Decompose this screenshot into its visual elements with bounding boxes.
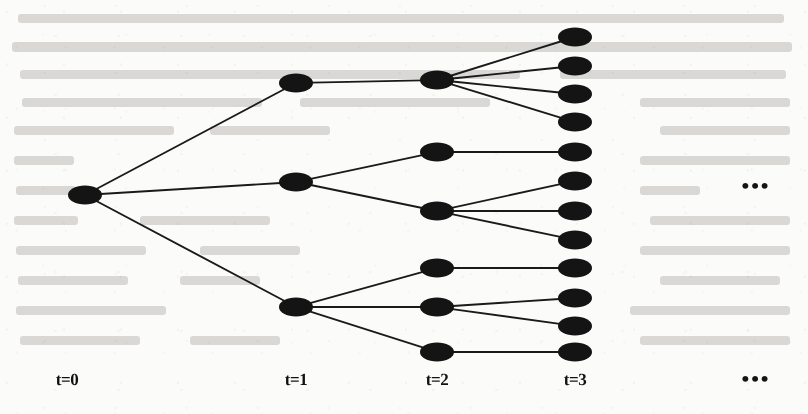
tree-node (420, 202, 454, 221)
stage-label-t2: t=2 (426, 370, 448, 390)
stage-label-t0: t=0 (56, 370, 78, 390)
tree-node (558, 85, 592, 104)
tree-node (420, 298, 454, 317)
tree-node (420, 343, 454, 362)
tree-node (420, 143, 454, 162)
tree-node (420, 259, 454, 278)
scenario-tree-figure: t=0t=1t=2t=3 •••••• (0, 0, 808, 414)
tree-node (68, 186, 102, 205)
tree-edge (453, 299, 560, 306)
tree-node (558, 143, 592, 162)
tree-edge (312, 80, 422, 82)
tree-graph (0, 0, 808, 414)
stage-label-t1: t=1 (285, 370, 307, 390)
tree-edge (311, 185, 423, 208)
tree-edge (101, 183, 281, 194)
tree-node (558, 172, 592, 191)
tree-edge (310, 311, 424, 347)
tree-edge (310, 272, 423, 303)
ellipsis-continuation-right: ••• (741, 175, 770, 197)
tree-edge (452, 68, 559, 79)
tree-node (279, 298, 313, 317)
tree-edge (96, 89, 284, 189)
tree-node (558, 113, 592, 132)
tree-node (558, 202, 592, 221)
tree-edge (96, 201, 284, 301)
tree-node (558, 343, 592, 362)
stage-label-t3: t=3 (564, 370, 586, 390)
tree-node (558, 28, 592, 47)
edge-group (96, 41, 561, 352)
tree-node (558, 259, 592, 278)
tree-edge (452, 184, 561, 208)
tree-node (420, 71, 454, 90)
tree-node (558, 317, 592, 336)
tree-node (558, 57, 592, 76)
tree-node (558, 289, 592, 308)
tree-edge (452, 82, 559, 93)
ellipsis-continuation-bottom: ••• (741, 368, 770, 390)
tree-edge (451, 41, 562, 75)
tree-edge (452, 214, 561, 237)
tree-node (279, 74, 313, 93)
tree-edge (452, 309, 560, 324)
tree-node (279, 173, 313, 192)
tree-node (558, 231, 592, 250)
tree-edge (451, 84, 562, 118)
tree-edge (311, 155, 423, 179)
